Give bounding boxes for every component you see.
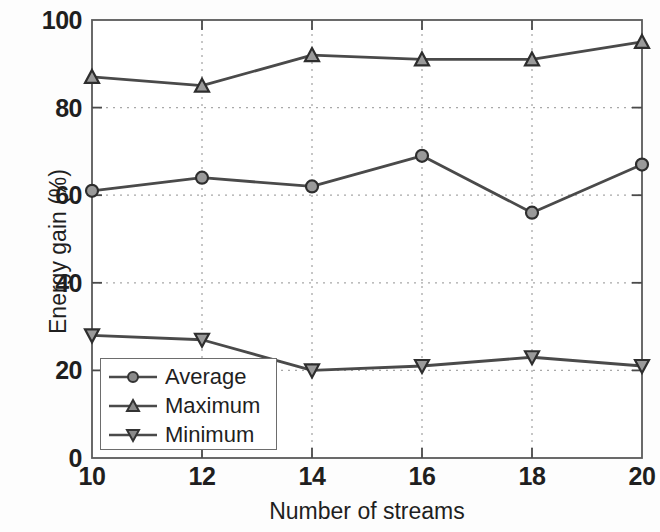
x-tick-label-20: 20 — [629, 462, 656, 491]
x-tick-label-18: 18 — [519, 462, 546, 491]
triangle-up-marker-icon — [107, 397, 159, 415]
data-point-marker — [306, 180, 318, 192]
x-tick-label-14: 14 — [299, 462, 326, 491]
plot-canvas — [0, 0, 660, 532]
data-point-marker — [636, 159, 648, 171]
legend-item-average: Average — [101, 362, 276, 391]
legend-label-minimum: Minimum — [165, 422, 254, 448]
y-tick-label-0: 0 — [0, 444, 82, 473]
triangle-down-marker-icon — [107, 426, 159, 444]
data-point-marker — [416, 150, 428, 162]
y-axis-title: Energy gain (%) — [45, 102, 72, 402]
chart-legend: Average Maximum Minimum — [100, 358, 277, 450]
x-tick-label-10: 10 — [79, 462, 106, 491]
legend-label-average: Average — [165, 364, 247, 390]
y-tick-label-100: 100 — [0, 6, 82, 35]
circle-marker-icon — [107, 368, 159, 386]
chart-figure: 100 80 60 40 20 0 10 12 14 16 18 20 Ener… — [0, 0, 660, 532]
legend-label-maximum: Maximum — [165, 393, 260, 419]
x-tick-label-12: 12 — [189, 462, 216, 491]
legend-item-maximum: Maximum — [101, 391, 276, 420]
data-point-marker — [196, 172, 208, 184]
x-axis-title: Number of streams — [92, 498, 642, 525]
x-tick-label-16: 16 — [409, 462, 436, 491]
data-point-marker — [526, 207, 538, 219]
legend-item-minimum: Minimum — [101, 420, 276, 449]
data-point-marker — [86, 185, 98, 197]
